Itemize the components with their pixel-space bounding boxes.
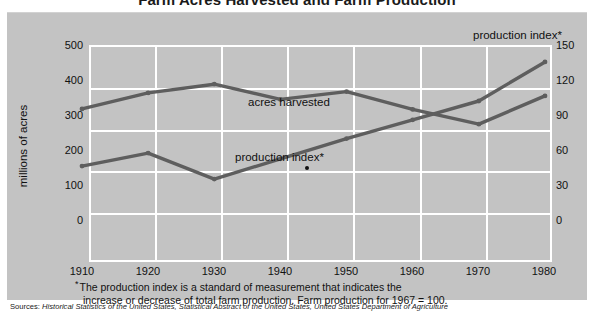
reference-dot-marker — [305, 166, 309, 170]
data-point — [212, 82, 217, 87]
data-point — [543, 94, 548, 99]
sources-line: Sources: Historical Statistics of the Un… — [10, 302, 448, 311]
data-point — [80, 107, 85, 112]
data-point — [543, 60, 548, 65]
series-label-acres: acres harvested — [248, 96, 330, 108]
data-point — [344, 89, 349, 94]
series-label-index: production index* — [235, 151, 324, 163]
chart-screenshot: Farm Acres Harvested and Farm Production… — [0, 0, 594, 326]
footnote-asterisk: * — [75, 279, 79, 289]
sources-text: Historical Statistics of the United Stat… — [40, 302, 448, 311]
data-point — [146, 151, 151, 156]
chart-panel: production index* millions of acres 500 … — [7, 12, 587, 300]
footnote-line-1: The production index is a standard of me… — [80, 281, 402, 293]
data-point — [410, 107, 415, 112]
data-point — [146, 90, 151, 95]
data-point — [80, 164, 85, 169]
data-point — [410, 117, 415, 122]
series-production-index — [80, 60, 548, 182]
chart-title: Farm Acres Harvested and Farm Production — [0, 0, 594, 8]
sources-label: Sources: — [10, 302, 40, 311]
data-point — [476, 99, 481, 104]
data-point — [212, 177, 217, 182]
data-point — [476, 122, 481, 127]
data-point — [344, 136, 349, 141]
